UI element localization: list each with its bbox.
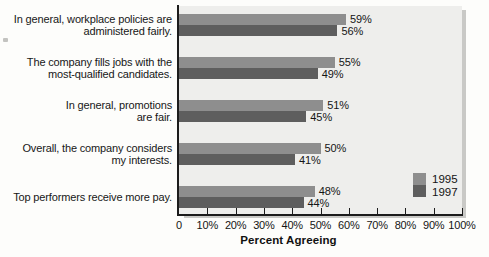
x-tick-label: 0	[176, 219, 182, 231]
x-tick-mark	[292, 208, 293, 214]
bar-value-label: 51%	[327, 100, 349, 111]
category-label: In general, workplace policies areadmini…	[0, 13, 172, 38]
x-tick-mark	[349, 208, 350, 214]
bar-chart-figure: In general, workplace policies areadmini…	[0, 0, 489, 257]
category-label: In general, promotionsare fair.	[0, 99, 172, 124]
category-label-line: are fair.	[0, 111, 172, 124]
bar-value-label: 48%	[319, 186, 341, 197]
bar-1997	[179, 111, 306, 122]
category-label-line: administered fairly.	[0, 25, 172, 38]
bar-1997	[179, 68, 318, 79]
x-tick-label: 100%	[448, 219, 475, 231]
legend-label-1995: 1995	[432, 173, 458, 185]
x-tick-label: 60%	[338, 219, 359, 231]
x-tick-mark	[207, 208, 208, 214]
bar-value-label: 44%	[308, 198, 330, 209]
bar-1995	[179, 100, 323, 111]
x-tick-label: 30%	[253, 219, 274, 231]
bar-1995	[179, 14, 346, 25]
x-tick-mark	[264, 208, 265, 214]
category-label: Overall, the company considersmy interes…	[0, 142, 172, 167]
bar-1995	[179, 57, 335, 68]
category-label-line: In general, promotions	[0, 99, 172, 112]
x-axis-title: Percent Agreeing	[0, 234, 489, 246]
scan-artifact-speck	[3, 38, 8, 42]
x-tick-label: 70%	[366, 219, 387, 231]
category-label: Top performers receive more pay.	[0, 191, 172, 204]
bar-1997	[179, 154, 295, 165]
category-label-line: most-qualified candidates.	[0, 68, 172, 81]
bar-1997	[179, 25, 337, 36]
x-tick-label: 20%	[225, 219, 246, 231]
bar-value-label: 55%	[339, 57, 361, 68]
category-label-line: Overall, the company considers	[0, 142, 172, 155]
bar-1995	[179, 186, 315, 197]
category-label-line: Top performers receive more pay.	[0, 191, 172, 204]
x-tick-mark	[377, 208, 378, 214]
x-tick-mark	[462, 208, 463, 214]
bar-1995	[179, 143, 321, 154]
x-axis-line	[177, 214, 463, 216]
bar-1997	[179, 197, 304, 208]
bar-value-label: 45%	[310, 112, 332, 123]
category-label-line: In general, workplace policies are	[0, 13, 172, 26]
bar-value-label: 49%	[322, 69, 344, 80]
legend-swatch-1997	[413, 185, 426, 197]
bar-value-label: 59%	[350, 14, 372, 25]
category-label: The company fills jobs with themost-qual…	[0, 56, 172, 81]
x-tick-label: 80%	[395, 219, 416, 231]
bar-value-label: 50%	[325, 143, 347, 154]
bar-value-label: 41%	[299, 155, 321, 166]
bar-value-label: 56%	[341, 26, 363, 37]
x-tick-mark	[405, 208, 406, 214]
x-tick-label: 10%	[197, 219, 218, 231]
x-tick-mark	[236, 208, 237, 214]
category-label-line: The company fills jobs with the	[0, 56, 172, 69]
x-tick-mark	[434, 208, 435, 214]
x-tick-label: 50%	[310, 219, 331, 231]
legend-label-1997: 1997	[432, 186, 458, 198]
x-tick-label: 90%	[423, 219, 444, 231]
legend-swatch-1995	[413, 173, 426, 185]
legend-swatch	[413, 173, 426, 197]
category-label-line: my interests.	[0, 154, 172, 167]
x-tick-label: 40%	[281, 219, 302, 231]
x-tick-mark	[321, 208, 322, 214]
